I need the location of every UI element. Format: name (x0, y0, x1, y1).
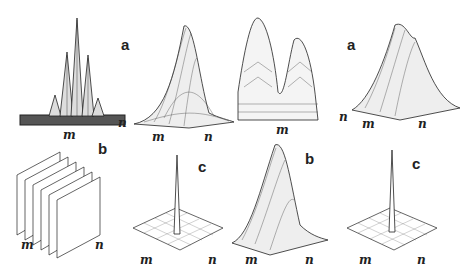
axis-label-m: m (245, 253, 258, 267)
axis-label-n: n (204, 130, 213, 144)
axis-label-m: m (276, 123, 289, 137)
panel-twin-peaks: m n (236, 12, 351, 137)
axis-label-m: m (140, 253, 153, 267)
axis-label-n: n (208, 253, 217, 267)
twin-peaks-surface (236, 12, 351, 122)
panel-sheet-stack: m n (15, 150, 130, 265)
axis-label-m: m (63, 128, 76, 142)
axis-label-m: m (21, 238, 34, 252)
gaussian-hump-b-surface (230, 140, 330, 260)
panel-gaussian-hump: m n (134, 18, 234, 143)
axis-label-n: n (95, 238, 104, 252)
spike-surface (128, 150, 228, 260)
axis-label-n: n (339, 110, 348, 124)
ridged-hump-surface (350, 20, 460, 120)
axis-label-n: n (417, 253, 426, 267)
axis-label-n: n (118, 116, 127, 130)
panel-single-spike: m n (128, 150, 228, 270)
axis-label-n: n (418, 117, 427, 131)
axis-label-m: m (362, 117, 375, 131)
axis-label-n: n (305, 253, 314, 267)
panel-label-a: a (121, 36, 129, 53)
gaussian-hump-surface (134, 18, 234, 128)
panel-ridged-hump: m n (350, 20, 460, 140)
panel-single-spike-2: m n (345, 150, 445, 270)
axis-label-m: m (359, 253, 372, 267)
spike-surface-2 (345, 150, 445, 260)
comb-peaks-surface (15, 10, 125, 130)
panel-comb-peaks: m n (15, 10, 125, 130)
panel-gaussian-hump-b: m n (230, 140, 330, 270)
axis-label-m: m (152, 130, 165, 144)
